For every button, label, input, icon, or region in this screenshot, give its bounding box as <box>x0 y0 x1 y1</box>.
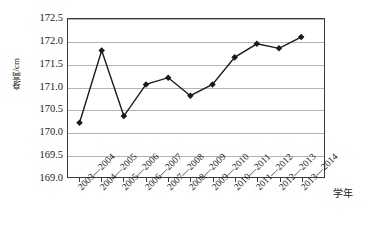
y-axis-title: 身高/cm <box>11 58 25 90</box>
y-tick-label: 171.0 <box>29 81 63 92</box>
data-point-marker <box>254 41 261 48</box>
data-point-marker <box>298 34 305 41</box>
height-trend-line-chart: 身高/cm 169.0169.5170.0170.5171.0171.5172.… <box>0 0 366 249</box>
y-tick-label: 170.0 <box>29 126 63 137</box>
y-tick-label: 171.5 <box>29 58 63 69</box>
y-axis-tick-labels: 169.0169.5170.0170.5171.0171.5172.0172.5 <box>27 0 63 249</box>
x-axis-title: 学年 <box>333 188 353 199</box>
y-tick-label: 169.0 <box>29 172 63 183</box>
data-point-marker <box>76 120 83 127</box>
y-tick-label: 172.5 <box>29 12 63 23</box>
y-tick-label: 172.0 <box>29 35 63 46</box>
series-polyline <box>80 37 302 123</box>
data-point-marker <box>98 47 105 54</box>
y-tick-label: 170.5 <box>29 103 63 114</box>
data-point-marker <box>276 45 283 52</box>
y-tick-label: 169.5 <box>29 149 63 160</box>
